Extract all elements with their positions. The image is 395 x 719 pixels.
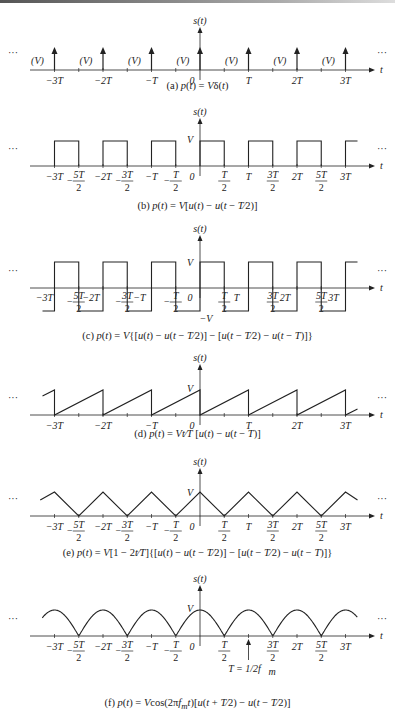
s-axis-arrow-icon	[198, 27, 203, 33]
tick-label: −	[164, 175, 170, 186]
waveform-figure: ts(t)······(V)(V)(V)(V)(V)(V)(V)−3T−2T−T…	[0, 0, 395, 719]
t-axis-arrow-icon	[369, 634, 375, 639]
caption-a: (a) p(t) = Vδ(t)	[0, 80, 395, 91]
t-axis-label: t	[380, 64, 383, 75]
sawtooth-waveform	[43, 390, 358, 415]
tick-label: 2T	[280, 292, 292, 303]
tick-label: −T	[145, 641, 159, 652]
tick-label: 2	[222, 182, 227, 193]
amplitude-label: (V)	[274, 55, 287, 67]
ellipsis-right: ···	[377, 392, 387, 403]
tick-label: 0	[190, 171, 195, 182]
amplitude-label: (V)	[225, 55, 238, 67]
tick-label: 3T	[339, 641, 352, 652]
ellipsis-right: ···	[377, 613, 387, 624]
tick-label: 0	[190, 641, 195, 652]
tick-label: 5T	[316, 169, 328, 180]
s-axis-label: s(t)	[193, 352, 207, 364]
amplitude-label: (V)	[177, 55, 190, 67]
tick-label: −2T	[94, 641, 113, 652]
tick-label: 2	[270, 532, 275, 543]
ellipsis-right: ···	[377, 265, 387, 276]
caption-f: (f) p(t) = Vcos(2πfmt)[u(t + T⁄2) − u(t …	[0, 697, 395, 711]
tick-label: −	[67, 645, 73, 656]
tick-label: −	[67, 175, 73, 186]
ellipsis-right: ···	[377, 493, 387, 504]
period-annotation: T = 1/2f	[228, 663, 262, 674]
period-annotation-sub: m	[269, 666, 276, 677]
tick-label: −	[115, 525, 121, 536]
tick-label: −	[164, 296, 170, 307]
tick-label: −	[115, 175, 121, 186]
tick-label: 2	[319, 532, 324, 543]
amplitude-label: V	[187, 487, 195, 498]
impulse-arrow-icon	[149, 47, 155, 54]
s-axis-arrow-icon	[198, 118, 203, 124]
caption-b: (b) p(t) = V[u(t) − u(t − T⁄2)]	[0, 200, 395, 211]
tick-label: −2T	[94, 171, 113, 182]
tick-label: 2	[125, 532, 130, 543]
t-axis-label: t	[380, 409, 383, 420]
s-axis-label: s(t)	[193, 106, 207, 118]
tick-label: 2	[125, 652, 130, 663]
tick-label: 3T	[121, 519, 134, 530]
ellipsis-left: ···	[8, 47, 18, 58]
tick-label: −3T	[46, 171, 65, 182]
neg-amplitude-label: −V	[200, 313, 215, 324]
tick-label: T	[173, 519, 180, 530]
tick-label: 2	[222, 303, 227, 314]
square-waveform	[43, 262, 358, 311]
t-axis-arrow-icon	[369, 514, 375, 519]
ellipsis-right: ···	[377, 143, 387, 154]
tick-label: 3T	[266, 169, 279, 180]
s-axis-arrow-icon	[198, 468, 203, 474]
amplitude-label: (V)	[322, 55, 335, 67]
amplitude-label: (V)	[128, 55, 141, 67]
tick-label: T	[234, 292, 241, 303]
tick-label: 2	[173, 182, 178, 193]
period-arrow-icon	[246, 639, 251, 645]
tick-label: 5T	[316, 639, 328, 650]
caption-e: (e) p(t) = V[1 − 2t⁄T]{[u(t) − u(t − T⁄2…	[0, 547, 395, 558]
tick-label: 2	[76, 532, 81, 543]
tick-label: T	[246, 521, 253, 532]
ellipsis-left: ···	[8, 265, 18, 276]
tick-label: 3T	[266, 519, 279, 530]
t-axis-label: t	[380, 160, 383, 171]
ellipsis-left: ···	[8, 493, 18, 504]
tick-label: 3T	[266, 290, 279, 301]
tick-label: T	[173, 290, 180, 301]
tick-label: 2T	[292, 521, 304, 532]
tick-label: 5T	[73, 519, 85, 530]
tick-label: 3T	[121, 290, 134, 301]
tick-label: −T	[133, 292, 147, 303]
tick-label: 3T	[121, 169, 134, 180]
tick-label: T	[221, 169, 228, 180]
tick-label: 2	[125, 182, 130, 193]
impulse-arrow-icon	[246, 47, 252, 54]
s-axis-arrow-icon	[198, 235, 203, 241]
tick-label: 2	[125, 303, 130, 314]
impulse-arrow-icon	[100, 47, 106, 54]
tick-label: 2	[319, 182, 324, 193]
caption-c: (c) p(t) = V{[u(t) − u(t − T⁄2)] − [u(t …	[0, 330, 395, 341]
tick-label: 5T	[73, 169, 85, 180]
triangle-waveform	[40, 492, 357, 516]
amplitude-label: V	[187, 257, 195, 268]
tick-label: 2	[319, 303, 324, 314]
tick-label: 0	[188, 292, 193, 303]
tick-label: 2T	[292, 641, 304, 652]
tick-label: T	[173, 169, 180, 180]
ellipsis-left: ···	[8, 143, 18, 154]
tick-label: 2	[270, 182, 275, 193]
tick-label: T	[221, 290, 228, 301]
tick-label: 3T	[121, 639, 134, 650]
tick-label: 0	[190, 521, 195, 532]
tick-label: 3T	[339, 171, 352, 182]
tick-label: −2T	[82, 292, 101, 303]
tick-label: −	[164, 525, 170, 536]
t-axis-arrow-icon	[369, 68, 375, 73]
tick-label: −	[164, 645, 170, 656]
tick-label: −T	[145, 171, 159, 182]
tick-label: 2	[173, 303, 178, 314]
